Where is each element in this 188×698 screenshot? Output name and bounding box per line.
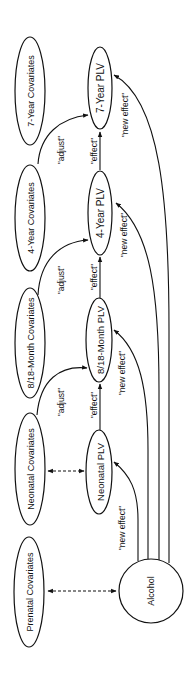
label-edge-new-effect-month: "new effect" [117, 351, 127, 396]
label-alcohol: Alcohol [146, 576, 156, 606]
label-edge-effect-7yr: "effect" [89, 138, 99, 165]
label-neonatal-plv: Neonatal PLV [95, 442, 106, 501]
label-neonatal-covariates: Neonatal Covariates [26, 428, 36, 510]
label-4-year-plv: 4-Year PLV [95, 188, 106, 238]
label-edge-adjust-7yr: "adjust" [56, 136, 66, 165]
causal-diagram: 7-Year Covariates 7-Year PLV 4-Year Cova… [0, 0, 188, 698]
label-edge-new-effect-4yr: "new effect" [119, 213, 129, 258]
label-7-year-plv: 7-Year PLV [95, 63, 106, 113]
label-month-plv: 8/18-Month PLV [95, 305, 106, 374]
label-4-year-covariates: 4-Year Covariates [26, 182, 36, 254]
label-edge-effect-4yr: "effect" [89, 264, 99, 291]
edge-new-effect-7yr [114, 75, 169, 563]
label-edge-effect-month: "effect" [89, 392, 99, 419]
label-7-year-covariates: 7-Year Covariates [26, 55, 36, 127]
label-month-covariates: 8/18-Month Covariates [26, 297, 36, 389]
label-edge-adjust-month: "adjust" [56, 388, 66, 417]
label-edge-adjust-4yr: "adjust" [56, 266, 66, 295]
label-edge-new-effect-neonatal: "new effect" [117, 506, 127, 551]
label-prenatal-covariates: Prenatal Covariates [25, 552, 35, 632]
label-edge-new-effect-7yr: "new effect" [120, 93, 130, 138]
